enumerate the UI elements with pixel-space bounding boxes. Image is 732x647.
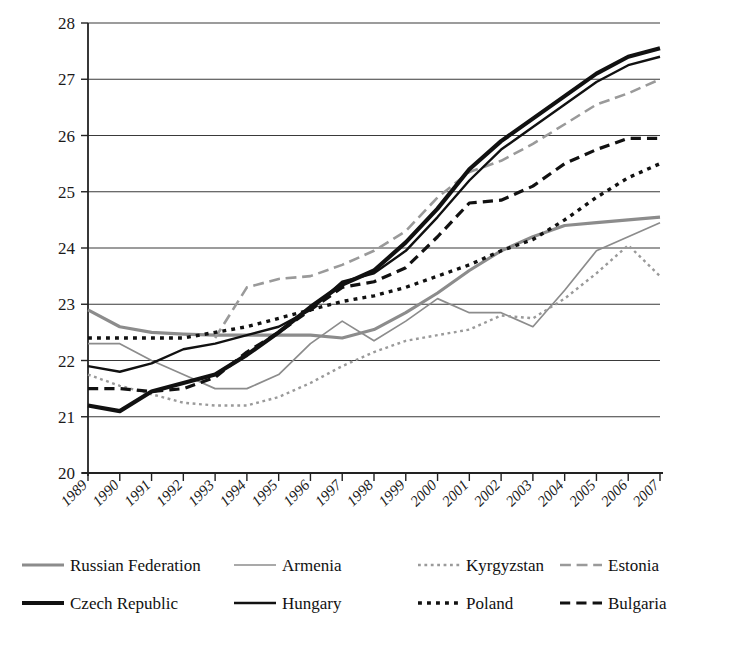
y-axis-tick-label: 22 bbox=[58, 352, 75, 371]
x-axis-tick-label: 1996 bbox=[280, 476, 313, 509]
y-axis-tick-label: 27 bbox=[58, 70, 76, 89]
y-axis-tick-label: 24 bbox=[58, 239, 76, 258]
legend-label-czech-republic: Czech Republic bbox=[70, 594, 179, 613]
legend-label-poland: Poland bbox=[466, 594, 514, 613]
x-axis-tick-label: 1995 bbox=[248, 476, 281, 509]
x-axis-tick-label: 1998 bbox=[344, 476, 377, 509]
y-axis-tick-label: 26 bbox=[58, 127, 75, 146]
series-line-czech-republic bbox=[88, 48, 660, 411]
x-axis-tick-label: 2002 bbox=[471, 476, 504, 509]
legend-label-hungary: Hungary bbox=[282, 594, 342, 613]
y-axis-tick-label: 28 bbox=[58, 14, 75, 33]
legend-label-estonia: Estonia bbox=[608, 556, 659, 575]
x-axis-tick-label: 1992 bbox=[153, 476, 186, 509]
y-axis-tick-label: 23 bbox=[58, 295, 75, 314]
y-axis-tick-label: 20 bbox=[58, 464, 75, 483]
x-axis-tick-label: 2007 bbox=[630, 476, 664, 510]
series-line-hungary bbox=[88, 57, 660, 372]
y-axis-tick-label: 21 bbox=[58, 408, 75, 427]
x-axis-tick-label: 1999 bbox=[375, 476, 408, 509]
x-axis-tick-label: 1993 bbox=[185, 477, 218, 510]
legend-label-russian-federation: Russian Federation bbox=[70, 556, 201, 575]
legend-label-bulgaria: Bulgaria bbox=[608, 594, 667, 613]
legend-label-kyrgyzstan: Kyrgyzstan bbox=[466, 556, 545, 575]
line-chart-svg: 2021222324252627281989199019911992199319… bbox=[0, 0, 732, 647]
x-axis-tick-label: 2005 bbox=[566, 476, 599, 509]
y-axis-tick-label: 25 bbox=[58, 183, 75, 202]
x-axis-tick-label: 2006 bbox=[598, 476, 631, 509]
x-axis-tick-label: 2001 bbox=[439, 477, 472, 510]
x-axis-tick-label: 1997 bbox=[312, 476, 346, 510]
x-axis-tick-label: 2004 bbox=[534, 476, 567, 509]
x-axis-tick-label: 2000 bbox=[407, 476, 440, 509]
x-axis-tick-label: 1990 bbox=[89, 476, 122, 509]
legend-label-armenia: Armenia bbox=[282, 556, 342, 575]
x-axis-tick-label: 2003 bbox=[502, 477, 535, 510]
chart-figure: 2021222324252627281989199019911992199319… bbox=[0, 0, 732, 647]
x-axis-tick-label: 1991 bbox=[121, 477, 154, 510]
x-axis-tick-label: 1994 bbox=[216, 476, 249, 509]
